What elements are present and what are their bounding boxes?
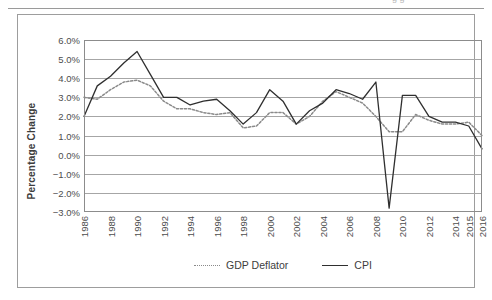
chart-screenshot: g g Percentage Change 6.0%5.0%4.0%3.0%2.…: [0, 0, 492, 300]
legend-swatch-solid: [322, 265, 348, 266]
series-line-gdp-deflator: [84, 80, 482, 135]
x-axis-tick: 2004: [317, 216, 328, 237]
series-lines: [84, 40, 482, 212]
x-axis-tick-label: 2015: [463, 216, 474, 237]
x-axis-tick: 1994: [185, 216, 196, 237]
x-axis-tick: 1992: [158, 216, 169, 237]
legend-label: CPI: [354, 259, 372, 271]
x-axis-tick-label: 2016: [477, 216, 488, 237]
x-axis-tick: 2010: [397, 216, 408, 237]
x-axis-tick-label: 2004: [317, 216, 328, 237]
x-axis-tick-label: 2000: [264, 216, 275, 237]
plot-area: 6.0%5.0%4.0%3.0%2.0%1.0%0.0%−1.0%−2.0%−3…: [84, 40, 482, 212]
x-axis-tick-label: 2010: [397, 216, 408, 237]
x-axis-tick: 2002: [291, 216, 302, 237]
x-axis-tick: 2012: [423, 216, 434, 237]
y-axis-tick-label: 1.0%: [58, 130, 80, 141]
x-axis-tick: 2015: [463, 216, 474, 237]
y-axis-tick-label: 5.0%: [58, 54, 80, 65]
cropped-text-fragment: g g: [392, 0, 405, 3]
x-axis-tick-label: 1990: [132, 216, 143, 237]
x-axis-tick-label: 1986: [79, 216, 90, 237]
x-axis-tick: 2006: [344, 216, 355, 237]
x-axis-tick: 2014: [450, 216, 461, 237]
y-axis-tick-label: −2.0%: [53, 187, 80, 198]
x-axis-tick-label: 1992: [158, 216, 169, 237]
x-axis-tick: 1996: [211, 216, 222, 237]
series-line-cpi: [84, 51, 482, 208]
legend-item-gdp-deflator: GDP Deflator: [194, 259, 288, 271]
x-axis-tick: 1990: [132, 216, 143, 237]
x-axis-tick-label: 2012: [423, 216, 434, 237]
y-axis-tick-label: 2.0%: [58, 111, 80, 122]
x-axis-tick-label: 2006: [344, 216, 355, 237]
x-axis-tick: 1998: [238, 216, 249, 237]
legend-swatch-dotted: [194, 265, 220, 266]
x-axis-tick-label: 1998: [238, 216, 249, 237]
x-axis-tick-label: 1996: [211, 216, 222, 237]
y-axis-tick-label: −1.0%: [53, 168, 80, 179]
y-axis-tick-label: 0.0%: [58, 149, 80, 160]
x-axis-tick: 1986: [79, 216, 90, 237]
x-axis-tick: 1988: [105, 216, 116, 237]
legend-label: GDP Deflator: [226, 259, 288, 271]
figure-frame: Percentage Change 6.0%5.0%4.0%3.0%2.0%1.…: [17, 14, 475, 288]
x-axis-tick: 2016: [477, 216, 488, 237]
x-axis-tick-label: 2002: [291, 216, 302, 237]
y-axis-tick-label: 6.0%: [58, 35, 80, 46]
y-axis-tick-label: 3.0%: [58, 92, 80, 103]
chart-legend: GDP DeflatorCPI: [84, 257, 482, 273]
x-axis-tick: 2000: [264, 216, 275, 237]
cropped-text-above-figure: g g: [0, 0, 492, 11]
x-axis-tick-label: 1994: [185, 216, 196, 237]
y-axis-title: Percentage Change: [26, 103, 37, 200]
legend-item-cpi: CPI: [322, 259, 372, 271]
y-axis-tick-label: 4.0%: [58, 73, 80, 84]
x-axis-tick-label: 2008: [370, 216, 381, 237]
x-axis-tick-label: 2014: [450, 216, 461, 237]
horizontal-rule: [8, 8, 484, 9]
x-axis-tick-label: 1988: [105, 216, 116, 237]
y-axis-tick-label: −3.0%: [53, 207, 80, 218]
x-axis-tick: 2008: [370, 216, 381, 237]
